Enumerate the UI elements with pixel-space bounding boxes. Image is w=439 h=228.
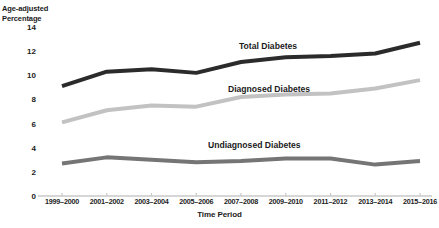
x-axis-tick-label: 1999–2000 [45, 197, 79, 206]
x-axis-tick-label: 2007–2008 [224, 197, 258, 206]
series-label-undiagnosed-diabetes: Undiagnosed Diabetes [208, 140, 301, 150]
y-axis-tick-14: 14 [10, 23, 36, 32]
y-axis-tick-4: 4 [10, 143, 36, 152]
series-line-undiagnosed-diabetes [62, 157, 420, 164]
x-axis-title: Time Period [0, 210, 439, 220]
x-axis-tick-label: 2001–2002 [90, 197, 124, 206]
x-axis-tick-label: 2009–2010 [269, 197, 303, 206]
y-axis-tick-8: 8 [10, 95, 36, 104]
y-axis-tick-10: 10 [10, 71, 36, 80]
x-axis-tick-label: 2003–2004 [134, 197, 168, 206]
series-label-diagnosed-diabetes: Diagnosed Diabetes [228, 84, 310, 94]
x-axis-tick-label: 2011–2012 [314, 197, 348, 206]
x-axis-tick-label: 2005–2006 [179, 197, 213, 206]
chart-container: Age-adjusted Percentage 02468101214 1999… [0, 0, 439, 228]
x-axis-tick-label: 2015–2016 [403, 197, 437, 206]
x-axis-tick-label: 2013–2014 [358, 197, 392, 206]
chart-plot-area [0, 0, 439, 228]
y-axis-tick-0: 0 [10, 192, 36, 201]
y-axis-tick-6: 6 [10, 119, 36, 128]
y-axis-tick-2: 2 [10, 167, 36, 176]
y-axis-tick-12: 12 [10, 47, 36, 56]
series-label-total-diabetes: Total Diabetes [239, 41, 297, 51]
